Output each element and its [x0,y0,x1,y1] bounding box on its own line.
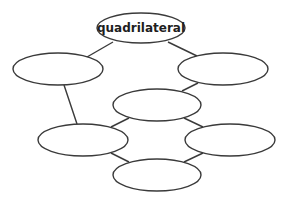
node-left[interactable] [13,53,103,85]
node-right[interactable] [178,53,268,85]
connector-lower-right-to-bottom [184,153,203,162]
node-middle[interactable] [113,89,201,121]
ellipse-lower-left[interactable] [38,124,128,156]
connector-middle-to-lower-left [111,118,129,127]
ellipse-right[interactable] [178,53,268,85]
concept-nodes: quadrilateral [13,13,275,191]
node-bottom[interactable] [113,159,201,191]
connector-top-to-right [168,42,197,56]
node-label-top: quadrilateral [97,21,185,35]
ellipse-left[interactable] [13,53,103,85]
ellipse-middle[interactable] [113,89,201,121]
connector-lower-left-to-bottom [111,153,129,162]
connector-middle-to-lower-right [184,118,203,127]
connector-top-to-left [87,42,113,57]
node-top: quadrilateral [97,13,185,43]
ellipse-lower-right[interactable] [185,124,275,156]
connector-left-to-lower-left [64,85,77,124]
concept-map-diagram: quadrilateral [0,0,284,204]
connector-right-to-middle [182,83,198,91]
ellipse-bottom[interactable] [113,159,201,191]
node-lower-right[interactable] [185,124,275,156]
node-lower-left[interactable] [38,124,128,156]
